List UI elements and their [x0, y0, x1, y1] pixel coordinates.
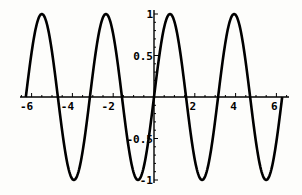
x-tick-label: 6	[271, 100, 278, 113]
sine-plot: -6-4-2246-1-0.50.51	[0, 0, 302, 195]
x-tick-label: -6	[20, 100, 34, 113]
x-tick-label: -4	[61, 100, 75, 113]
x-tick-label: 4	[230, 100, 237, 113]
y-tick-label: 0.5	[133, 50, 153, 63]
x-tick-label: -2	[102, 100, 115, 113]
y-tick-label: 1	[146, 8, 153, 21]
x-tick-label: 2	[189, 100, 196, 113]
